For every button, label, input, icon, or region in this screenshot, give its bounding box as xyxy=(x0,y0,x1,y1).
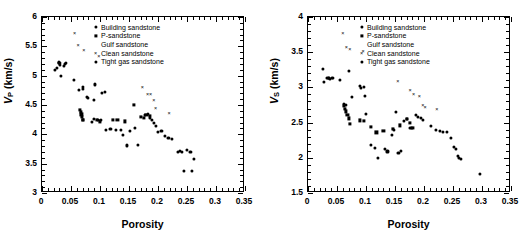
y-tick-major xyxy=(42,193,47,194)
y-tick-major xyxy=(42,46,47,47)
y-tick-major xyxy=(308,193,313,194)
data-point-circle-icon xyxy=(94,83,97,86)
data-point-circle-icon xyxy=(363,94,366,97)
x-tick-minor xyxy=(331,17,332,20)
legend-label: Building sandstone xyxy=(367,24,426,31)
circle-icon xyxy=(360,26,363,29)
x-tick-major xyxy=(129,186,130,191)
y-tick-major xyxy=(238,193,243,194)
legend-label: Tight gas sandstone xyxy=(101,58,164,65)
y-tick-major xyxy=(504,193,509,194)
y-tick-minor xyxy=(240,35,243,36)
plot-area-vp: ×××××××××× Building sandstoneP-sandstone… xyxy=(41,16,244,192)
data-point-square-icon xyxy=(111,118,114,121)
x-tick-minor xyxy=(112,188,113,191)
x-tick-minor xyxy=(77,17,78,20)
legend-label: Building sandstone xyxy=(101,24,160,31)
y-tick-major xyxy=(238,105,243,106)
y-tick-minor xyxy=(42,52,45,53)
x-tick-minor xyxy=(407,17,408,20)
y-tick-label: 2 xyxy=(266,152,303,162)
x-tick-major xyxy=(366,186,367,191)
x-tick-major xyxy=(482,17,483,22)
y-tick-major xyxy=(308,52,313,53)
circle-icon xyxy=(94,26,97,29)
data-point-cross-icon: × xyxy=(395,79,400,84)
y-tick-minor xyxy=(42,187,45,188)
x-tick-minor xyxy=(239,188,240,191)
y-tick-minor xyxy=(240,58,243,59)
x-tick-label: 0.1 xyxy=(93,196,105,206)
legend-label: P-sandstone xyxy=(367,32,406,39)
y-tick-minor xyxy=(240,181,243,182)
y-tick-minor xyxy=(308,66,311,67)
y-tick-major xyxy=(308,87,313,88)
x-tick-minor xyxy=(418,188,419,191)
data-point-circle-icon xyxy=(391,133,394,136)
legend-square-icon xyxy=(90,32,101,41)
y-tick-minor xyxy=(506,24,509,25)
data-point-circle-icon xyxy=(338,78,341,81)
data-point-circle-icon xyxy=(347,70,350,73)
x-tick-minor xyxy=(141,188,142,191)
x-tick-minor xyxy=(499,17,500,20)
y-tick-minor xyxy=(42,152,45,153)
data-point-square-icon xyxy=(382,129,385,132)
y-tick-minor xyxy=(42,64,45,65)
data-point-circle-icon xyxy=(56,66,59,69)
y-tick-major xyxy=(238,134,243,135)
x-tick-label: 0.3 xyxy=(209,196,221,206)
y-tick-minor xyxy=(42,82,45,83)
x-tick-minor xyxy=(199,188,200,191)
data-point-square-icon xyxy=(408,121,411,124)
y-tick-label: 5.5 xyxy=(0,40,37,50)
x-tick-minor xyxy=(441,188,442,191)
x-tick-label: 0.3 xyxy=(475,196,487,206)
y-tick-major xyxy=(238,46,243,47)
x-tick-minor xyxy=(193,188,194,191)
data-point-circle-icon xyxy=(60,74,63,77)
data-point-circle-icon xyxy=(125,144,128,147)
legend-cross-icon: × xyxy=(90,49,101,58)
legend-row: P-sandstone xyxy=(356,32,430,41)
y-tick-major xyxy=(504,123,509,124)
y-tick-label: 3 xyxy=(0,187,37,197)
x-tick-major xyxy=(337,186,338,191)
x-tick-minor xyxy=(48,17,49,20)
x-tick-minor xyxy=(331,188,332,191)
y-tick-minor xyxy=(308,45,311,46)
legend-row: ×Clean sandstone xyxy=(90,49,164,58)
y-tick-major xyxy=(238,17,243,18)
x-tick-minor xyxy=(372,17,373,20)
data-point-square-icon xyxy=(398,124,401,127)
x-tick-label: 0.2 xyxy=(151,196,163,206)
x-tick-major xyxy=(158,17,159,22)
x-tick-minor xyxy=(320,17,321,20)
x-tick-minor xyxy=(204,188,205,191)
x-tick-minor xyxy=(94,188,95,191)
x-tick-minor xyxy=(465,17,466,20)
y-tick-minor xyxy=(240,82,243,83)
x-tick-minor xyxy=(141,17,142,20)
x-tick-minor xyxy=(372,188,373,191)
x-tick-minor xyxy=(383,17,384,20)
x-tick-minor xyxy=(88,17,89,20)
x-tick-minor xyxy=(407,188,408,191)
y-tick-minor xyxy=(506,130,509,131)
cross-icon: × xyxy=(93,51,98,56)
data-point-square-icon xyxy=(362,120,365,123)
y-tick-minor xyxy=(240,40,243,41)
y-tick-minor xyxy=(308,59,311,60)
x-tick-minor xyxy=(83,188,84,191)
x-tick-minor xyxy=(152,188,153,191)
x-tick-label: 0.05 xyxy=(328,196,345,206)
x-tick-minor xyxy=(210,17,211,20)
x-tick-minor xyxy=(123,17,124,20)
x-tick-minor xyxy=(360,17,361,20)
y-tick-label: 2.5 xyxy=(266,117,303,127)
square-icon xyxy=(360,34,363,37)
x-tick-label: 0.15 xyxy=(120,196,137,206)
data-point-circle-icon xyxy=(373,146,376,149)
data-point-circle-icon xyxy=(115,129,118,132)
y-tick-minor xyxy=(42,158,45,159)
